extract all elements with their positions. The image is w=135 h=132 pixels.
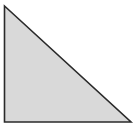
diagram-canvas: [0, 0, 135, 132]
right-triangle-shape: [5, 6, 132, 122]
triangle-figure: [0, 0, 135, 132]
